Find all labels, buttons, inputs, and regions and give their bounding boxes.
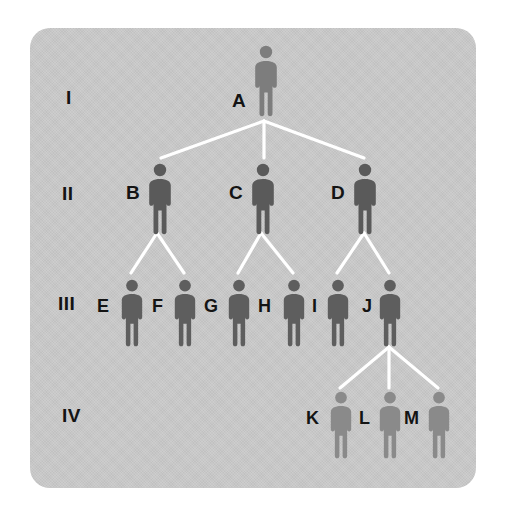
person-node-c[interactable] [250,163,276,235]
person-pictogram-icon [253,45,279,117]
person-label-j: J [362,297,372,315]
person-node-m[interactable] [426,391,452,459]
person-pictogram-icon [328,391,354,459]
person-node-g[interactable] [226,279,252,347]
person-node-d[interactable] [352,163,378,235]
person-label-b: B [126,183,140,202]
person-pictogram-icon [426,391,452,459]
person-node-k[interactable] [328,391,354,459]
person-label-k: K [306,409,319,427]
person-label-a: A [232,91,246,110]
person-pictogram-icon [119,279,145,347]
person-label-g: G [204,297,218,315]
person-node-j[interactable] [377,279,403,347]
level-numeral-iii: III [58,294,75,313]
person-node-a[interactable] [253,45,279,117]
person-label-m: M [404,409,419,427]
person-label-e: E [97,297,109,315]
person-node-f[interactable] [172,279,198,347]
person-node-e[interactable] [119,279,145,347]
person-pictogram-icon [352,163,378,235]
person-label-d: D [331,183,345,202]
person-label-i: I [312,297,317,315]
person-pictogram-icon [250,163,276,235]
person-pictogram-icon [377,279,403,347]
person-pictogram-icon [281,279,307,347]
person-pictogram-icon [377,391,403,459]
person-pictogram-icon [172,279,198,347]
person-node-i[interactable] [325,279,351,347]
person-node-b[interactable] [147,163,173,235]
person-label-l: L [359,409,370,427]
person-pictogram-icon [147,163,173,235]
person-node-l[interactable] [377,391,403,459]
person-label-h: H [258,297,271,315]
level-numeral-iv: IV [62,406,81,425]
level-numeral-i: I [66,88,72,107]
diagram-canvas: IIIIIIIV ABCDEFGHIJKLM [0,0,505,517]
person-label-f: F [152,297,163,315]
person-label-c: C [229,183,243,202]
person-pictogram-icon [325,279,351,347]
level-numeral-ii: II [62,184,74,203]
person-node-h[interactable] [281,279,307,347]
person-pictogram-icon [226,279,252,347]
